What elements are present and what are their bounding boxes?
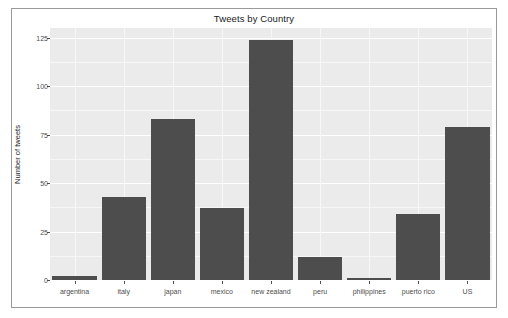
y-tick-mark: [47, 232, 50, 233]
y-tick-mark: [47, 280, 50, 281]
x-tick-mark: [222, 281, 223, 284]
bar-peru[interactable]: [298, 257, 342, 280]
x-tick-label-puerto-rico: puerto rico: [402, 288, 435, 295]
x-tick-mark: [467, 281, 468, 284]
y-tick-label: 125: [8, 34, 48, 41]
x-tick-label-US: US: [463, 288, 473, 295]
chart-title: Tweets by Country: [0, 13, 508, 24]
y-tick-label: 25: [8, 228, 48, 235]
x-tick-mark: [271, 281, 272, 284]
bar-puerto-rico[interactable]: [396, 214, 440, 280]
y-tick-mark: [47, 86, 50, 87]
y-axis-title: Number of tweets: [13, 95, 22, 215]
x-tick-mark: [75, 281, 76, 284]
x-tick-mark: [124, 281, 125, 284]
y-tick-mark: [47, 183, 50, 184]
x-tick-mark: [418, 281, 419, 284]
bar-argentina[interactable]: [52, 276, 96, 280]
x-tick-mark: [173, 281, 174, 284]
x-tick-label-argentina: argentina: [60, 288, 89, 295]
y-tick-mark: [47, 38, 50, 39]
bar-US[interactable]: [445, 127, 489, 280]
bar-philippines[interactable]: [347, 278, 391, 280]
x-tick-mark: [320, 281, 321, 284]
x-tick-label-philippines: philippines: [353, 288, 386, 295]
y-tick-label: 75: [8, 131, 48, 138]
bar-japan[interactable]: [151, 119, 195, 280]
x-tick-label-mexico: mexico: [211, 288, 233, 295]
y-tick-label: 0: [8, 277, 48, 284]
x-tick-label-new-zealand: new zealand: [251, 288, 290, 295]
bar-new-zealand[interactable]: [249, 40, 293, 280]
y-tick-label: 50: [8, 180, 48, 187]
chart-figure: Tweets by Country Number of tweets 02550…: [0, 0, 508, 318]
x-tick-label-italy: italy: [117, 288, 129, 295]
bar-italy[interactable]: [102, 197, 146, 280]
x-tick-mark: [369, 281, 370, 284]
y-tick-label: 100: [8, 83, 48, 90]
x-tick-label-peru: peru: [313, 288, 327, 295]
plot-panel: [50, 28, 492, 280]
y-tick-mark: [47, 135, 50, 136]
bar-mexico[interactable]: [200, 208, 244, 280]
x-tick-label-japan: japan: [164, 288, 181, 295]
bar-series: [50, 28, 492, 280]
